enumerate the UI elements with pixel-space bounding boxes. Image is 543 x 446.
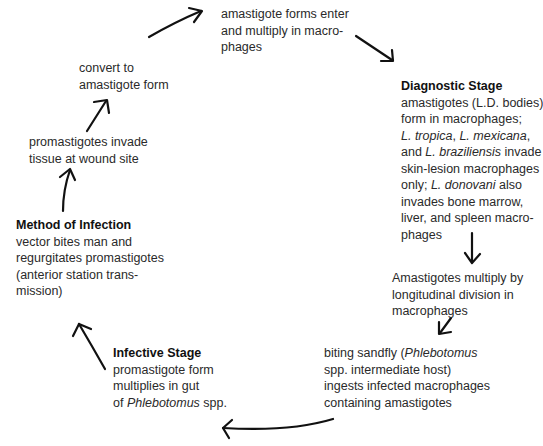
node-text-line: biting sandfly (Phlebotomus (324, 345, 490, 362)
node-convert-amastigote: convert to amastigote form (79, 60, 169, 93)
genus-name: Phlebotomus (405, 346, 478, 360)
node-text-line: amastigote forms enter (221, 6, 349, 23)
node-text-line: invades bone marrow, (401, 194, 543, 211)
node-text-line: L. tropica, L. mexicana, (401, 128, 543, 145)
stage-title-infective: Infective Stage (113, 345, 227, 362)
stage-title-method: Method of Infection (16, 217, 164, 234)
node-text-line: containing amastigotes (324, 395, 490, 412)
node-text-line: macrophages (392, 303, 523, 320)
species-name: L. tropica (401, 129, 452, 143)
node-text-line: form in macrophages; (401, 111, 543, 128)
node-text-line: spp. intermediate host) (324, 362, 490, 379)
text-fragment: biting sandfly ( (324, 346, 405, 360)
node-text-line: Amastigotes multiply by (392, 270, 523, 287)
node-text-line: only; L. donovani also (401, 177, 543, 194)
node-text-line: (anterior station trans- (16, 267, 164, 284)
node-infective-stage: Infective Stage promastigote form multip… (113, 345, 227, 411)
species-name: L. donovani (431, 178, 496, 192)
node-invade-tissue: promastigotes invade tissue at wound sit… (29, 134, 148, 167)
node-text-line: vector bites man and (16, 234, 164, 251)
genus-name: Phlebotomus (127, 396, 200, 410)
node-text-line: tissue at wound site (29, 151, 148, 168)
node-text-line: multiplies in gut (113, 378, 227, 395)
text-fragment: also (496, 178, 522, 192)
node-sandfly-bites: biting sandfly (Phlebotomus spp. interme… (324, 345, 490, 411)
node-text-line: promastigote form (113, 362, 227, 379)
node-text-line: promastigotes invade (29, 134, 148, 151)
node-text-line: skin-lesion macrophages (401, 161, 543, 178)
node-amastigotes-multiply: Amastigotes multiply by longitudinal div… (392, 270, 523, 320)
node-diagnostic-stage: Diagnostic Stage amastigotes (L.D. bodie… (401, 78, 543, 243)
node-text-line: amastigote form (79, 77, 169, 94)
node-text-line: and multiply in macro- (221, 23, 349, 40)
arrow-infective-to-method (73, 324, 105, 369)
node-text-line: liver, and spleen macro- (401, 210, 543, 227)
text-fragment: of (113, 396, 127, 410)
arrow-multiply-to-sandfly (439, 318, 451, 334)
arrow-enter-to-diagnostic (356, 36, 393, 61)
node-text-line: amastigotes (L.D. bodies) (401, 95, 543, 112)
species-name: L. braziliensis (425, 145, 501, 159)
node-enter-macrophages: amastigote forms enter and multiply in m… (221, 6, 349, 56)
node-text-line: regurgitates promastigotes (16, 250, 164, 267)
arrow-sandfly-to-infective (223, 419, 333, 438)
node-text-line: phages (401, 227, 543, 244)
node-text-line: phages (221, 39, 349, 56)
node-text-line: mission) (16, 283, 164, 300)
arrow-method-to-invade (60, 169, 75, 211)
node-text-line: ingests infected macrophages (324, 378, 490, 395)
text-fragment: and (401, 145, 425, 159)
text-fragment: invade (501, 145, 541, 159)
punct: , (527, 129, 530, 143)
text-fragment: only; (401, 178, 431, 192)
node-text-line: and L. braziliensis invade (401, 144, 543, 161)
node-text-line: longitudinal division in (392, 287, 523, 304)
node-text-line: of Phlebotomus spp. (113, 395, 227, 412)
arrow-invade-to-convert (87, 100, 109, 131)
stage-title-diagnostic: Diagnostic Stage (401, 78, 543, 95)
species-name: L. mexicana (459, 129, 526, 143)
arrow-convert-to-enter (149, 8, 202, 37)
node-method-of-infection: Method of Infection vector bites man and… (16, 217, 164, 300)
node-text-line: convert to (79, 60, 169, 77)
text-fragment: spp. (200, 396, 227, 410)
